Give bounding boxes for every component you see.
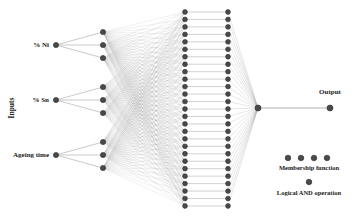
legend-label-logical-and-operation: Logical AND operation: [277, 190, 341, 197]
edges-rules-to-normalize: [185, 12, 228, 206]
input-label-ni: % Ni: [33, 42, 49, 49]
normalize-nodes: [226, 10, 231, 209]
rule-nodes: [183, 10, 188, 209]
network-graph: [0, 0, 358, 220]
edges-membership-to-rules: [103, 12, 185, 206]
anfis-diagram: Inputs % Ni % Sn Ageing time Output Memb…: [0, 0, 358, 220]
membership-nodes: [100, 29, 105, 170]
input-nodes: [53, 42, 58, 157]
inputs-axis-label: Inputs: [8, 98, 16, 119]
edges-normalize-to-aggregate: [228, 12, 258, 206]
aggregate-node: [255, 105, 261, 111]
legend-label-membership-function: Membership function: [279, 165, 339, 172]
output-label: Output: [319, 89, 341, 96]
edges-input-to-membership: [56, 32, 103, 168]
input-label-ageing-time: Ageing time: [13, 152, 49, 159]
output-node: [327, 105, 333, 111]
input-label-sn: % Sn: [32, 97, 49, 104]
